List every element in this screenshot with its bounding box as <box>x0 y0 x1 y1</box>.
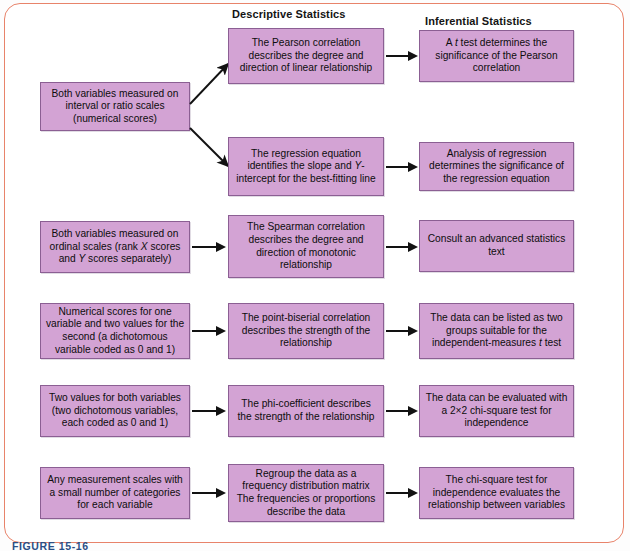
node-text: Any measurement scales with a small numb… <box>45 474 185 512</box>
arrow-regroup-to-chisquare-head <box>408 488 418 498</box>
node-text: Numerical scores for one variable and tw… <box>45 306 185 356</box>
node-text: Both variables measured on ordinal scale… <box>45 228 185 266</box>
node-text: The Pearson correlation describes the de… <box>233 37 379 75</box>
arrow-ordinal-to-spearman-line <box>192 246 218 248</box>
arrow-regression-to-analysis-head <box>408 162 418 172</box>
node-condition-ordinal: Both variables measured on ordinal scale… <box>40 221 190 273</box>
node-text: Consult an advanced statistics text <box>424 233 569 258</box>
arrow-regroup-to-chisquare-line <box>386 492 410 494</box>
arrow-anyscales-to-regroup-head <box>216 488 226 498</box>
node-descriptive-regression: The regression equation identifies the s… <box>228 137 384 196</box>
node-inferential-chi-square-independence: The chi-square test for independence eva… <box>419 467 574 519</box>
node-text: Two values for both variables (two dicho… <box>45 392 185 430</box>
node-inferential-t-test: A t test determines the significance of … <box>419 30 574 82</box>
arrow-spearman-to-consult-head <box>408 242 418 252</box>
column-header-descriptive: Descriptive Statistics <box>232 8 345 20</box>
node-descriptive-point-biserial: The point-biserial correlation describes… <box>228 303 384 359</box>
node-text: Analysis of regression determines the si… <box>424 148 569 186</box>
arrow-phi-condition-to-descriptive-head <box>216 406 226 416</box>
arrow-pbis-condition-to-descriptive-line <box>192 330 218 332</box>
node-condition-phi: Two values for both variables (two dicho… <box>40 385 190 437</box>
node-text: The Spearman correlation describes the d… <box>233 221 379 271</box>
node-text: The regression equation identifies the s… <box>233 148 379 186</box>
figure-caption: FIGURE 15-16 <box>12 540 89 551</box>
arrow-spearman-to-consult-line <box>386 246 410 248</box>
arrow-pbis-to-independent-measures-head <box>408 326 418 336</box>
node-text: Both variables measured on interval or r… <box>45 88 185 126</box>
arrow-anyscales-to-regroup-line <box>192 492 218 494</box>
node-text: The data can be evaluated with a 2×2 chi… <box>424 392 569 430</box>
node-inferential-independent-measures: The data can be listed as two groups sui… <box>419 303 574 359</box>
arrow-phi-condition-to-descriptive-line <box>192 410 218 412</box>
node-descriptive-regroup-frequency: Regroup the data as a frequency distribu… <box>228 464 384 522</box>
arrow-pearson-to-ttest-line <box>386 55 410 57</box>
arrow-pbis-condition-to-descriptive-head <box>216 326 226 336</box>
node-condition-any-scales: Any measurement scales with a small numb… <box>40 467 190 519</box>
node-inferential-consult-text: Consult an advanced statistics text <box>419 220 574 272</box>
node-text: A t test determines the significance of … <box>424 37 569 75</box>
node-inferential-2x2-chi-square: The data can be evaluated with a 2×2 chi… <box>419 385 574 437</box>
arrow-pbis-to-independent-measures-line <box>386 330 410 332</box>
node-text: The data can be listed as two groups sui… <box>424 312 569 350</box>
column-header-inferential: Inferential Statistics <box>425 15 532 27</box>
node-descriptive-pearson: The Pearson correlation describes the de… <box>228 28 384 84</box>
scanned-page: Descriptive Statistics Inferential Stati… <box>0 0 630 551</box>
node-text: The point-biserial correlation describes… <box>233 312 379 350</box>
arrow-phi-to-chisquare-line <box>386 410 410 412</box>
arrow-pearson-to-ttest-head <box>408 51 418 61</box>
arrow-phi-to-chisquare-head <box>408 406 418 416</box>
arrow-regression-to-analysis-line <box>386 166 410 168</box>
arrow-ordinal-to-spearman-head <box>216 242 226 252</box>
node-descriptive-spearman: The Spearman correlation describes the d… <box>228 215 384 278</box>
node-descriptive-phi-coefficient: The phi-coefficient describes the streng… <box>228 385 384 437</box>
node-condition-point-biserial: Numerical scores for one variable and tw… <box>40 303 190 359</box>
node-inferential-analysis-regression: Analysis of regression determines the si… <box>419 142 574 191</box>
node-text: The chi-square test for independence eva… <box>424 474 569 512</box>
node-condition-interval-ratio: Both variables measured on interval or r… <box>40 82 190 131</box>
node-text: Regroup the data as a frequency distribu… <box>233 468 379 518</box>
node-text: The phi-coefficient describes the streng… <box>233 398 379 423</box>
